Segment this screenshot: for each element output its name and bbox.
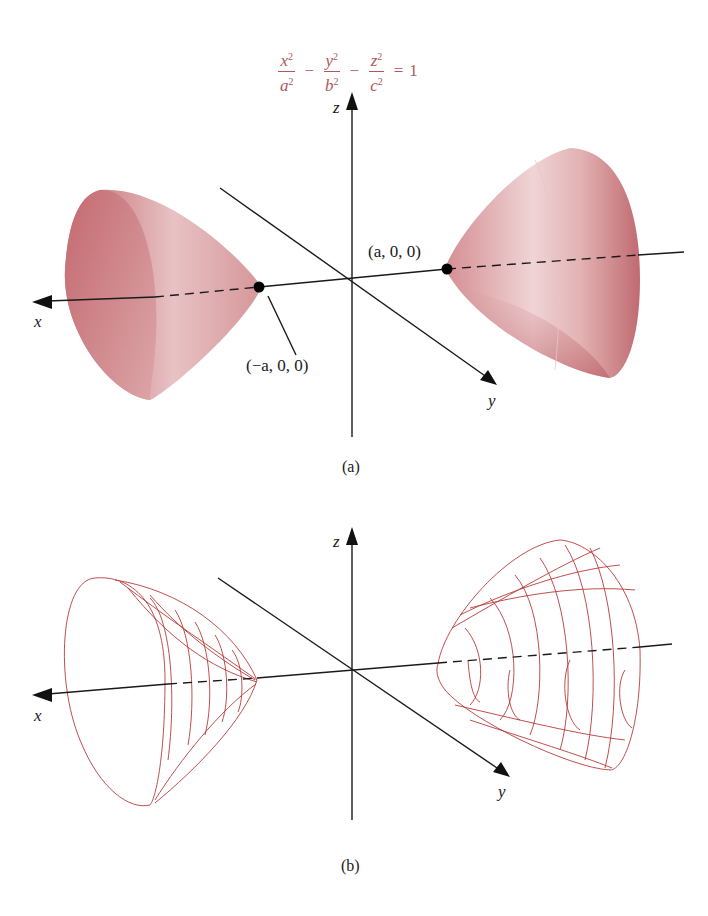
x-axis <box>257 663 438 678</box>
left-sheet-shaded <box>65 190 262 400</box>
point-label-a: (a, 0, 0) <box>368 242 421 262</box>
panel-b-z-label: z <box>333 532 340 552</box>
vertex-point-a <box>442 264 453 275</box>
z-arrow-icon <box>346 92 358 110</box>
caption-b: (b) <box>341 857 360 875</box>
y-arrow-icon <box>493 762 510 777</box>
x-axis <box>259 269 447 287</box>
x-arrow-icon <box>32 688 52 702</box>
right-sheet-shaded <box>445 148 640 378</box>
y-axis <box>218 578 500 770</box>
point-label-neg-a: (−a, 0, 0) <box>246 356 308 376</box>
vertex-point-neg-a <box>254 282 265 293</box>
hyperboloid-two-sheets-figure: x2 a2 − y2 b2 − z2 c2 = 1 <box>0 0 708 916</box>
panel-b-x-label: x <box>34 706 42 726</box>
panel-a-x-label: x <box>34 312 42 332</box>
panel-b-arrows <box>32 527 510 777</box>
x-arrow-icon <box>32 295 52 309</box>
y-arrow-icon <box>480 370 497 385</box>
panel-b-y-label: y <box>498 782 506 802</box>
panel-a-y-label: y <box>488 391 496 411</box>
left-sheet-wireframe <box>64 578 257 806</box>
right-sheet-wireframe <box>437 540 640 770</box>
panel-b-axes <box>48 540 672 820</box>
caption-a: (a) <box>342 458 360 476</box>
z-arrow-icon <box>346 527 358 545</box>
panel-a-z-label: z <box>333 98 340 118</box>
